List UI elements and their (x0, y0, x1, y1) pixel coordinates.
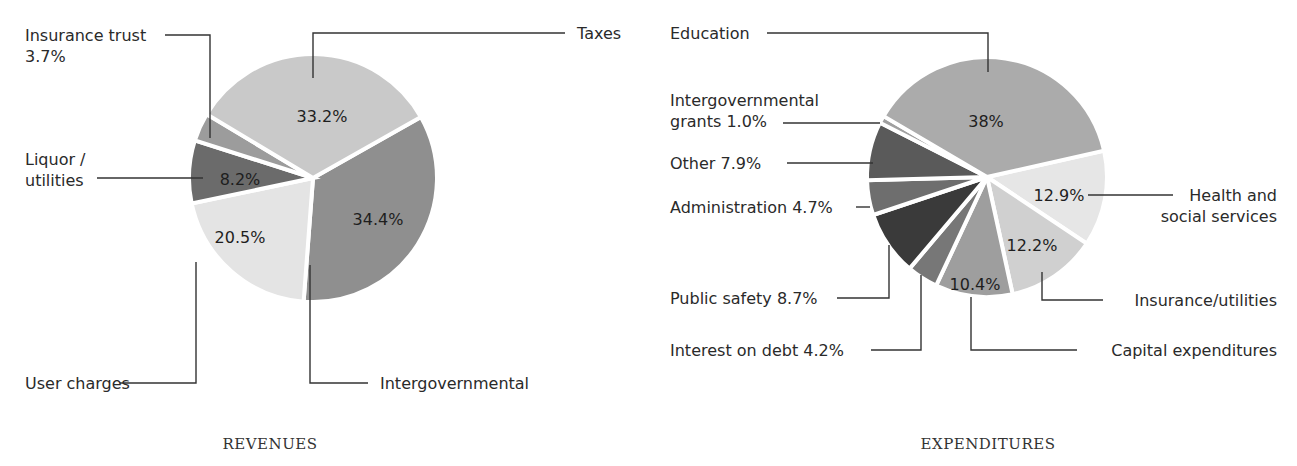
leader-line-user-charges (120, 262, 196, 383)
chart-title-revenues: REVENUES (222, 435, 317, 453)
chart-title-expenditures: EXPENDITURES (921, 435, 1056, 453)
value-label-taxes: 33.2% (297, 107, 348, 126)
category-label-interest-on-debt: Interest on debt 4.2% (670, 341, 844, 360)
pie-charts: 34.4%Intergovernmental20.5%User charges8… (0, 0, 1297, 466)
category-label-user-charges: User charges (25, 374, 130, 393)
expenditures-pie: 12.9%Health andsocial services12.2%Insur… (670, 24, 1277, 453)
category-label-health-and-social-services: Health andsocial services (1161, 186, 1277, 226)
category-label-capital-expenditures: Capital expenditures (1111, 341, 1277, 360)
category-label-other: Other 7.9% (670, 154, 761, 173)
category-label-liquor-utilities: Liquor /utilities (25, 150, 86, 190)
category-label-insurance-trust: Insurance trust3.7% (25, 26, 146, 66)
value-label-education: 38% (968, 112, 1004, 131)
category-label-public-safety: Public safety 8.7% (670, 289, 818, 308)
leader-line-capital-expenditures (971, 297, 1077, 350)
category-label-taxes: Taxes (576, 24, 621, 43)
value-label-health-and-social-services: 12.9% (1034, 186, 1085, 205)
leader-line-public-safety (837, 245, 889, 298)
value-label-liquor-utilities: 8.2% (220, 170, 261, 189)
category-label-education: Education (670, 24, 750, 43)
category-label-intergovernmental: Intergovernmental (380, 374, 529, 393)
value-label-intergovernmental: 34.4% (353, 210, 404, 229)
category-label-intergovernmental-grants: Intergovernmentalgrants 1.0% (670, 91, 819, 131)
category-label-administration: Administration 4.7% (670, 198, 833, 217)
value-label-user-charges: 20.5% (215, 228, 266, 247)
value-label-capital-expenditures: 10.4% (950, 275, 1001, 294)
revenues-pie: 34.4%Intergovernmental20.5%User charges8… (25, 24, 621, 453)
value-label-insurance-utilities: 12.2% (1007, 236, 1058, 255)
leader-line-interest-on-debt (871, 275, 921, 350)
category-label-insurance-utilities: Insurance/utilities (1134, 291, 1277, 310)
